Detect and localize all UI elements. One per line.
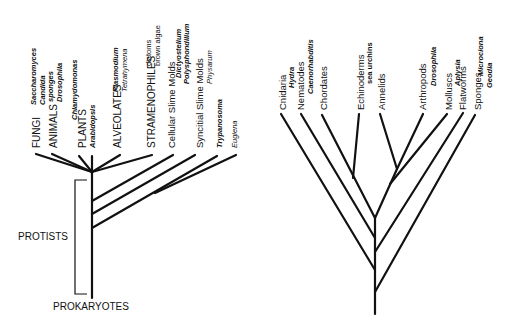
drosophila-label-left: Drosophila — [55, 63, 64, 102]
sea-urchins-label: sea urchins — [365, 42, 374, 84]
trypanosoma-label: Trypanosoma — [215, 99, 224, 148]
branch-protostomes — [375, 169, 397, 218]
physarum-label: Physarum — [205, 50, 214, 84]
branch-nematodes — [301, 114, 375, 238]
protists-label: PROTISTS — [18, 231, 68, 242]
phylogeny-figure: PROTISTS PROKARYOTES FUNGI Saccharomyces… — [0, 0, 505, 332]
caenorhabditis-label: Caenorhabditis — [306, 39, 315, 94]
annelids-label: Annelids — [376, 73, 387, 110]
eukaryote-tree: PROTISTS PROKARYOTES FUNGI Saccharomyces… — [18, 23, 239, 312]
branch-stramenophiles — [92, 155, 152, 172]
sponges-label: sponges — [46, 71, 55, 102]
stramenophiles-label: STRAMENOPHILES — [146, 55, 157, 148]
saccharomyces-label: Saccharomyces — [29, 48, 38, 105]
syncitial-slime-molds-label: Syncitial Slime Molds — [194, 58, 205, 148]
polysphondilium-label: Polysphondilium — [182, 23, 191, 84]
arabidopsis-label: Arabidopsis — [88, 105, 97, 149]
microciona-label: Microciona — [476, 36, 485, 76]
drosophila-label-right: Drosophila — [429, 47, 438, 86]
plants-label: PLANTS — [77, 109, 88, 148]
fungi-label: FUNGI — [31, 117, 42, 148]
animals-label: ANIMALS — [48, 104, 59, 148]
diatoms-label: diatoms — [144, 39, 153, 66]
branch-alveolates — [92, 155, 120, 172]
prokaryotes-label: PROKARYOTES — [53, 301, 129, 312]
tetrahymena-label: Tetrahymena — [120, 49, 129, 93]
branch-cellular-slime-molds — [92, 155, 173, 201]
sponges-label: Sponges — [472, 72, 483, 110]
branch-euglena — [155, 155, 236, 193]
branch-chordates — [322, 115, 375, 218]
geodia-label: Geodia — [485, 63, 494, 88]
brown-algae-label: brown algae — [153, 25, 162, 66]
flatworms-label: Flatworms — [457, 66, 468, 110]
alveolates-label: ALVEOLATES — [112, 84, 123, 148]
arthropods-label: Arthropods — [417, 63, 428, 110]
plasmodium-label: Plasmodium — [111, 47, 120, 92]
branch-echinoderms — [353, 114, 359, 178]
euglena-label: Euglena — [230, 120, 239, 148]
branch-annelids — [380, 114, 397, 169]
protists-bracket — [75, 180, 87, 294]
branch-flatworms — [375, 113, 463, 252]
metazoan-tree: Cnidaria Hydra Nematodes Caenorhabditis … — [277, 36, 494, 314]
chordates-label: Chordates — [318, 66, 329, 110]
nematodes-label: Nematodes — [295, 61, 306, 110]
